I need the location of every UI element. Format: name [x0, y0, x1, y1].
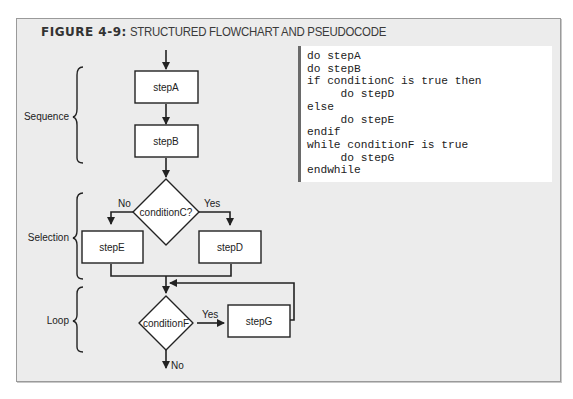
branch-f-yes-label: Yes: [202, 309, 218, 320]
step-a-label: stepA: [153, 82, 179, 93]
arrow-c-yes: [198, 212, 230, 225]
branch-c-no-label: No: [118, 198, 131, 209]
section-label-sequence: Sequence: [24, 111, 69, 122]
section-label-loop: Loop: [47, 315, 70, 326]
branch-c-yes-label: Yes: [204, 198, 220, 209]
arrow-c-no: [111, 212, 135, 224]
flowchart: stepA stepB stepE stepD stepG conditionC…: [0, 0, 573, 399]
branch-f-no-label: No: [171, 360, 184, 371]
merge-line: [111, 264, 231, 276]
step-e-label: stepE: [99, 242, 125, 253]
step-d-label: stepD: [217, 242, 243, 253]
section-label-selection: Selection: [28, 232, 69, 243]
step-g-label: stepG: [246, 316, 273, 327]
condition-f-label: conditionF: [143, 318, 189, 329]
sequence-brace: [73, 67, 83, 163]
condition-c-label: conditionC?: [140, 207, 193, 218]
loop-brace: [73, 287, 83, 352]
step-b-label: stepB: [153, 136, 179, 147]
